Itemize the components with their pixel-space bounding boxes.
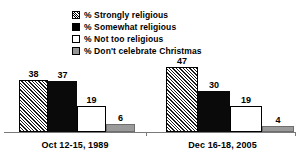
bar-value-label: 47 (166, 56, 198, 66)
bar-2[interactable]: 37 (48, 63, 77, 132)
bar-set: 4730194 (166, 63, 294, 132)
bar-rect[interactable] (166, 67, 198, 132)
chart-container: % Strongly religious % Somewhat religiou… (0, 0, 300, 159)
bar-2[interactable]: 30 (198, 63, 230, 132)
bar-value-label: 37 (48, 70, 77, 80)
legend-item-label: % Not too religious (84, 34, 163, 44)
legend-swatch-gray-icon (72, 47, 80, 55)
bar-value-label: 19 (77, 95, 106, 105)
bar-set: 3837196 (19, 63, 135, 132)
bar-rect[interactable] (106, 124, 135, 132)
legend-item-label: % Strongly religious (84, 10, 168, 20)
x-axis-baseline (4, 132, 296, 133)
legend-swatch-hatch-icon (72, 11, 80, 19)
legend-item-dont-celebrate-christmas[interactable]: % Don't celebrate Christmas (72, 46, 202, 56)
bar-value-label: 19 (230, 95, 262, 105)
bar-rect[interactable] (230, 106, 262, 132)
bar-4[interactable]: 6 (106, 63, 135, 132)
bar-value-label: 30 (198, 80, 230, 90)
x-axis-label-2005: Dec 16-18, 2005 (150, 140, 295, 150)
legend-item-label: % Don't celebrate Christmas (84, 46, 202, 56)
legend-item-strongly-religious[interactable]: % Strongly religious (72, 10, 202, 20)
cut-off-title (0, 0, 300, 5)
legend-item-not-too-religious[interactable]: % Not too religious (72, 34, 202, 44)
legend-swatch-solid-icon (72, 23, 80, 31)
chart-legend: % Strongly religious % Somewhat religiou… (72, 10, 202, 56)
plot-area: 3837196 4730194 (0, 63, 300, 133)
bar-rect[interactable] (198, 91, 230, 132)
bar-3[interactable]: 19 (230, 63, 262, 132)
bar-rect[interactable] (262, 126, 294, 132)
bar-1[interactable]: 47 (166, 63, 198, 132)
bar-value-label: 38 (19, 69, 48, 79)
bar-rect[interactable] (19, 80, 48, 132)
bar-rect[interactable] (77, 106, 106, 132)
x-axis-tick (295, 132, 296, 136)
legend-swatch-white-icon (72, 35, 80, 43)
bar-value-label: 6 (106, 113, 135, 123)
legend-item-somewhat-religious[interactable]: % Somewhat religious (72, 22, 202, 32)
bar-4[interactable]: 4 (262, 63, 294, 132)
bar-value-label: 4 (262, 115, 294, 125)
x-axis-tick (146, 132, 147, 136)
legend-item-label: % Somewhat religious (84, 22, 176, 32)
bar-1[interactable]: 38 (19, 63, 48, 132)
bar-3[interactable]: 19 (77, 63, 106, 132)
x-axis-label-1989: Oct 12-15, 1989 (10, 140, 140, 150)
bar-rect[interactable] (48, 81, 77, 132)
